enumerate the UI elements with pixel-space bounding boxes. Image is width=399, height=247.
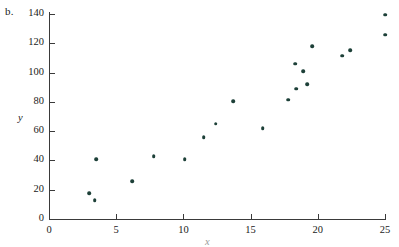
y-tick [50,190,55,191]
data-point [294,87,298,91]
x-tick-label: 20 [303,224,333,235]
data-point [340,54,344,58]
y-tick [50,219,55,220]
y-tick [50,160,55,161]
x-axis-line [49,219,386,220]
x-axis-title: x [205,236,210,247]
data-point [286,98,290,102]
x-tick [116,214,117,219]
y-tick [50,102,55,103]
data-point [305,83,309,87]
x-tick-label: 25 [370,224,399,235]
x-tick-label: 10 [168,224,198,235]
y-tick-label: 80 [14,95,44,106]
data-point [383,13,387,17]
data-point [214,122,218,126]
data-point [93,198,97,202]
data-point [383,33,387,37]
data-point [301,69,305,73]
data-point [94,157,98,161]
x-tick [318,214,319,219]
x-tick-label: 15 [236,224,266,235]
y-tick-label: 0 [14,212,44,223]
data-point [152,154,156,158]
y-tick [50,131,55,132]
x-tick [49,214,50,219]
y-tick-label: 140 [14,7,44,18]
y-tick-label: 20 [14,183,44,194]
x-tick [251,214,252,219]
y-tick-label: 40 [14,153,44,164]
x-tick-label: 5 [101,224,131,235]
data-point [261,126,265,130]
y-axis-title: y [18,112,23,123]
x-tick [385,214,386,219]
y-tick-label: 60 [14,124,44,135]
data-point [293,62,297,66]
x-tick [183,214,184,219]
x-tick-label: 0 [34,224,64,235]
data-point [131,179,135,183]
data-point [311,44,315,48]
y-tick-label: 120 [14,36,44,47]
data-point [88,192,92,196]
data-point [348,48,352,52]
y-tick [50,14,55,15]
data-point [202,135,206,139]
y-tick-label: 100 [14,66,44,77]
y-tick [50,73,55,74]
data-point [231,99,235,103]
data-point [183,157,187,161]
y-tick [50,43,55,44]
